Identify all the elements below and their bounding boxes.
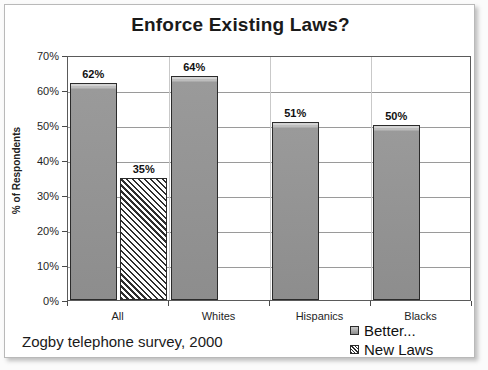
chart-legend: Better...New Laws xyxy=(350,321,433,359)
chart-card: Enforce Existing Laws? % of Respondents … xyxy=(4,4,475,358)
bar-value-label: 62% xyxy=(70,68,117,80)
legend-item: Better... xyxy=(350,321,433,340)
legend-swatch-new-laws-icon xyxy=(350,345,359,354)
y-axis-tick-label: 10% xyxy=(7,260,59,272)
legend-item: New Laws xyxy=(350,340,433,359)
x-axis-tick-mark xyxy=(370,301,371,306)
scanned-page-background: Enforce Existing Laws? % of Respondents … xyxy=(0,0,488,370)
y-axis-tick-label: 20% xyxy=(7,225,59,237)
y-axis-tick-label: 40% xyxy=(7,155,59,167)
source-annotation: Zogby telephone survey, 2000 xyxy=(22,333,223,350)
legend-label: New Laws xyxy=(364,341,433,358)
y-axis-tick-label: 0% xyxy=(7,295,59,307)
plot-area: 62%35%64%51%50% xyxy=(67,56,471,301)
bar-hispanics-better xyxy=(272,122,319,301)
y-axis-tick-label: 60% xyxy=(7,85,59,97)
legend-label: Better... xyxy=(364,322,416,339)
bar-value-label: 35% xyxy=(120,163,167,175)
chart-title: Enforce Existing Laws? xyxy=(5,14,476,36)
x-axis-category-label: Whites xyxy=(168,310,269,322)
bar-whites-better xyxy=(171,76,218,300)
y-axis-tick-label: 50% xyxy=(7,120,59,132)
x-axis-category-label: All xyxy=(67,310,168,322)
bar-value-label: 51% xyxy=(272,107,319,119)
bar-all-new-laws xyxy=(120,178,167,301)
legend-swatch-better-icon xyxy=(350,326,359,335)
y-axis-tick-label: 30% xyxy=(7,190,59,202)
bar-all-better xyxy=(70,83,117,300)
bar-value-label: 64% xyxy=(171,61,218,73)
gridline xyxy=(68,92,470,93)
bar-value-label: 50% xyxy=(373,110,420,122)
x-axis-tick-mark xyxy=(471,301,472,306)
x-axis-tick-mark xyxy=(168,301,169,306)
x-axis-tick-mark xyxy=(67,301,68,306)
x-axis-tick-mark xyxy=(269,301,270,306)
y-axis-tick-label: 70% xyxy=(7,50,59,62)
bar-blacks-better xyxy=(373,125,420,300)
